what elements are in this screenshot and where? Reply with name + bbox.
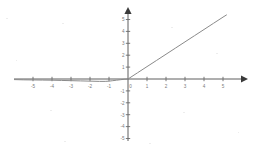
plot-canvas: -5-4-3-2-1012345 -5-4-3-2-112345 (0, 0, 257, 151)
y-tick-label: 4 (122, 29, 125, 34)
x-tick-label: 2 (165, 84, 168, 89)
x-tick-label: -5 (31, 84, 36, 89)
y-tick-label: 2 (122, 53, 125, 58)
x-tick-label: -2 (88, 84, 93, 89)
x-tick-label: 3 (184, 84, 187, 89)
x-tick-label: 1 (146, 84, 149, 89)
function-curve (14, 15, 227, 82)
y-tick-label: -3 (121, 113, 126, 118)
x-tick-label: -4 (50, 84, 55, 89)
graph-figure: -5-4-3-2-1012345 -5-4-3-2-112345 (0, 0, 257, 151)
y-axis (124, 7, 131, 141)
x-tick-label: 5 (222, 84, 225, 89)
x-tick-label: 0 (129, 84, 132, 89)
x-tick-label: -1 (107, 84, 112, 89)
y-tick-label: -5 (121, 136, 126, 141)
x-tick-label: -3 (69, 84, 74, 89)
y-tick-label: 3 (122, 41, 125, 46)
y-tick-label: 5 (122, 17, 125, 22)
y-tick-label: -2 (121, 101, 126, 106)
y-tick-label: -4 (121, 124, 126, 129)
y-tick-label: -1 (121, 89, 126, 94)
y-tick-label: 1 (122, 65, 125, 70)
x-tick-label: 4 (203, 84, 206, 89)
